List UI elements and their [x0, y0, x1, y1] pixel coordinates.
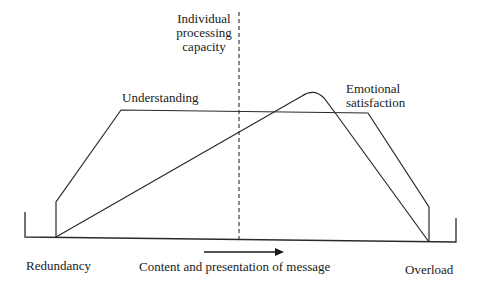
emotional-label-line2: satisfaction	[346, 96, 405, 110]
axis-title: Content and presentation of message	[139, 260, 330, 274]
capacity-label-line1: Individual	[170, 12, 238, 26]
diagram-canvas: Individual processing capacity Understan…	[0, 0, 482, 294]
direction-arrow-head-icon	[275, 248, 284, 256]
diagram-graphics	[0, 0, 482, 294]
emotional-satisfaction-curve	[56, 92, 429, 242]
emotional-satisfaction-label: Emotional satisfaction	[346, 82, 405, 110]
emotional-label-line1: Emotional	[346, 82, 405, 96]
baseline-axis	[25, 212, 456, 242]
redundancy-label: Redundancy	[26, 259, 91, 273]
understanding-label: Understanding	[122, 91, 199, 105]
overload-label: Overload	[405, 263, 453, 277]
capacity-label-line3: capacity	[170, 40, 238, 54]
capacity-label-line2: processing	[170, 26, 238, 40]
capacity-label: Individual processing capacity	[170, 12, 238, 54]
